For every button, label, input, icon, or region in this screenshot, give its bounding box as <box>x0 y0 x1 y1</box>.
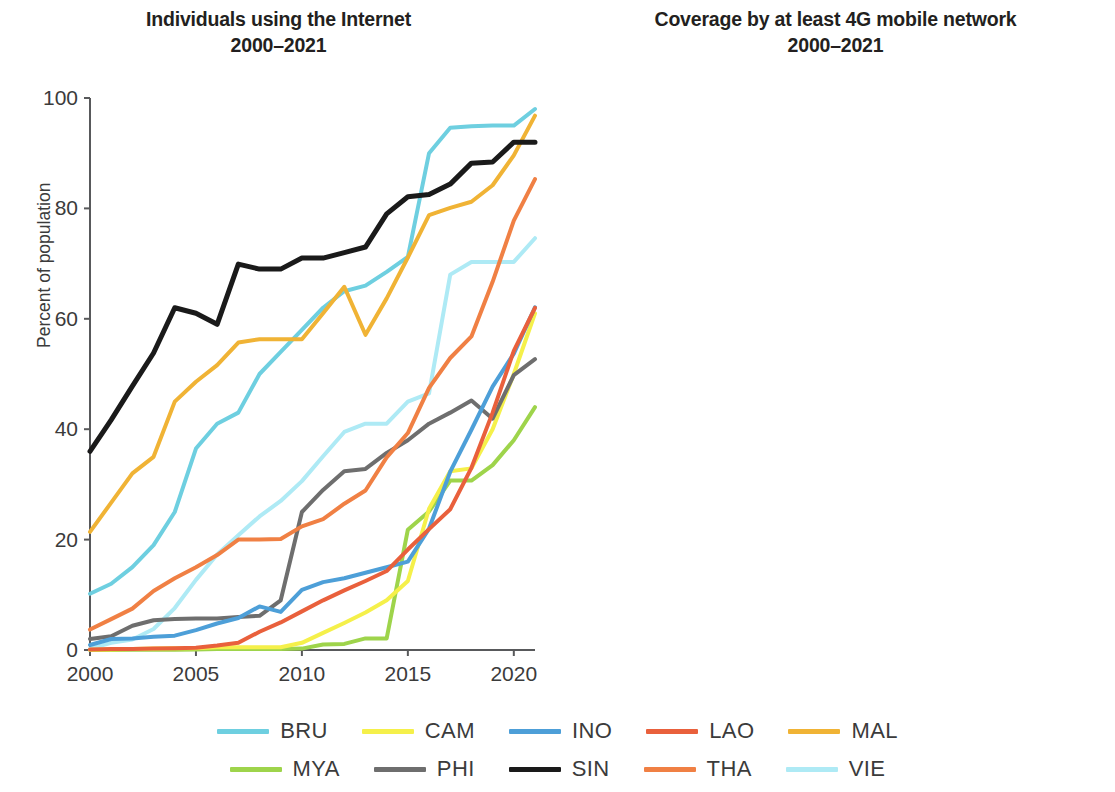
y-tick-label: 40 <box>55 417 78 441</box>
axis-spine <box>90 98 535 650</box>
chart-legend: BRUCAMINOLAOMALMYAPHISINTHAVIE <box>0 712 1115 788</box>
legend-label-mal: MAL <box>851 718 897 744</box>
legend-swatch-tha <box>644 767 696 772</box>
x-tick-label: 2015 <box>384 662 431 686</box>
series-line-sin <box>90 142 535 451</box>
y-axis-label-left: Percent of population <box>34 183 55 348</box>
y-tick-label: 60 <box>55 307 78 331</box>
legend-row: BRUCAMINOLAOMAL <box>0 712 1115 750</box>
legend-label-lao: LAO <box>709 718 754 744</box>
legend-swatch-phi <box>374 767 426 772</box>
legend-item-phi[interactable]: PHI <box>374 756 475 782</box>
legend-swatch-mya <box>230 767 282 772</box>
legend-item-sin[interactable]: SIN <box>509 756 610 782</box>
legend-swatch-ino <box>509 729 561 734</box>
legend-label-mya: MYA <box>293 756 340 782</box>
y-tick-label: 100 <box>43 86 78 110</box>
y-tick-label: 0 <box>66 638 78 662</box>
x-tick-label: 2005 <box>173 662 220 686</box>
x-tick-label: 2010 <box>279 662 326 686</box>
x-tick-label: 2020 <box>490 662 537 686</box>
legend-item-mya[interactable]: MYA <box>230 756 340 782</box>
legend-item-mal[interactable]: MAL <box>788 718 897 744</box>
y-tick-label: 80 <box>55 196 78 220</box>
legend-label-bru: BRU <box>280 718 328 744</box>
legend-item-vie[interactable]: VIE <box>786 756 886 782</box>
panel-title-right-main: Coverage by at least 4G mobile network <box>655 8 1017 30</box>
legend-swatch-bru <box>217 729 269 734</box>
legend-swatch-lao <box>646 729 698 734</box>
legend-item-ino[interactable]: INO <box>509 718 612 744</box>
y-tick-label: 20 <box>55 528 78 552</box>
series-line-phi <box>90 359 535 639</box>
legend-item-bru[interactable]: BRU <box>217 718 328 744</box>
legend-item-cam[interactable]: CAM <box>362 718 475 744</box>
panel-title-right-sub: 2000–2021 <box>557 32 1114 58</box>
legend-label-vie: VIE <box>849 756 886 782</box>
legend-label-phi: PHI <box>437 756 475 782</box>
legend-label-ino: INO <box>572 718 612 744</box>
panel-title-left: Individuals using the Internet 2000–2021 <box>0 6 557 58</box>
panel-title-left-sub: 2000–2021 <box>0 32 557 58</box>
legend-label-tha: THA <box>707 756 752 782</box>
legend-swatch-vie <box>786 767 838 772</box>
legend-row: MYAPHISINTHAVIE <box>0 750 1115 788</box>
panel-4g-coverage: Coverage by at least 4G mobile network 2… <box>557 0 1114 700</box>
panel-internet-usage: Individuals using the Internet 2000–2021… <box>0 0 557 700</box>
legend-swatch-mal <box>788 729 840 734</box>
plot-area-left: Percent of population 020406080100200020… <box>90 98 535 650</box>
legend-item-lao[interactable]: LAO <box>646 718 754 744</box>
panel-title-right: Coverage by at least 4G mobile network 2… <box>557 6 1114 58</box>
chart-panels: Individuals using the Internet 2000–2021… <box>0 0 1115 700</box>
legend-label-sin: SIN <box>572 756 610 782</box>
panel-title-left-main: Individuals using the Internet <box>146 8 411 30</box>
legend-label-cam: CAM <box>425 718 475 744</box>
chart-page: Individuals using the Internet 2000–2021… <box>0 0 1115 792</box>
legend-item-tha[interactable]: THA <box>644 756 752 782</box>
line-chart-left <box>90 98 535 650</box>
legend-swatch-sin <box>509 767 561 772</box>
legend-swatch-cam <box>362 729 414 734</box>
x-tick-label: 2000 <box>67 662 114 686</box>
